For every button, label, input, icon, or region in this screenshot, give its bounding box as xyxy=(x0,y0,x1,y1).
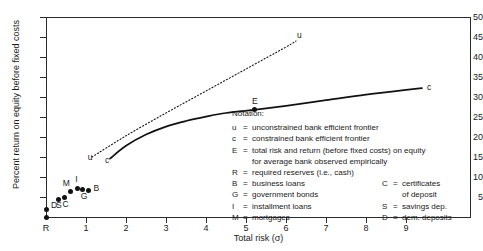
notation-right-entry: C=certificates xyxy=(382,178,440,189)
notation-text-E: total risk and return (before fixed cost… xyxy=(252,146,425,155)
notation-row: E=total risk and return (before fixed co… xyxy=(232,145,480,156)
notation-text-D: dem. deposits xyxy=(402,213,452,222)
notation-equals: = xyxy=(243,201,252,212)
notation-equals: = xyxy=(243,122,252,133)
data-point-label-S: S xyxy=(56,201,62,210)
notation-row: for average bank observed empirically xyxy=(232,156,480,167)
notation-equals: = xyxy=(243,133,252,144)
notation-rows: u=unconstrained bank efficient frontierc… xyxy=(232,122,480,223)
notation-row: I=installment loansS=savings dep. xyxy=(232,201,480,212)
data-point-marker-D xyxy=(44,207,49,212)
notation-right-entry: S=savings dep. xyxy=(382,201,447,212)
notation-row: R=required reserves (i.e., cash) xyxy=(232,167,480,178)
notation-row: B=business loansC=certificates xyxy=(232,178,480,189)
notation-continuation-text: for average bank observed empirically xyxy=(232,157,387,166)
notation-right-entry: of deposit xyxy=(402,189,437,200)
notation-text-R: required reserves (i.e., cash) xyxy=(252,168,354,177)
chart-root: 5101520253035404550 123456789R Percent r… xyxy=(0,0,483,251)
notation-row: M=mortgagesD=dem. deposits xyxy=(232,212,480,223)
notation-legend: Notation: u=unconstrained bank efficient… xyxy=(232,108,480,223)
notation-key-R: R xyxy=(232,167,243,178)
notation-text-c: constrained bank efficient frontier xyxy=(252,134,370,143)
curve-label-c-start: c xyxy=(105,156,109,165)
curve-label-u-start: u xyxy=(88,153,93,162)
notation-key-C: C xyxy=(382,178,393,189)
notation-equals: = xyxy=(393,212,402,223)
notation-key-u: u xyxy=(232,122,243,133)
notation-key-D: D xyxy=(382,212,393,223)
data-point-marker-R xyxy=(44,215,49,220)
curve-label-u-end: u xyxy=(297,31,302,40)
notation-text-G: government bonds xyxy=(252,190,318,199)
notation-text-S: savings dep. xyxy=(402,202,447,211)
notation-equals: = xyxy=(243,212,252,223)
notation-key-M: M xyxy=(232,212,243,223)
notation-equals: = xyxy=(393,178,402,189)
notation-equals: = xyxy=(243,189,252,200)
notation-key-I: I xyxy=(232,201,243,212)
notation-key-S: S xyxy=(382,201,393,212)
notation-key-E: E xyxy=(232,145,243,156)
notation-text-u: unconstrained bank efficient frontier xyxy=(252,123,379,132)
data-point-label-C: C xyxy=(62,200,68,209)
notation-key-G: G xyxy=(232,189,243,200)
notation-row: G=government bondsof deposit xyxy=(232,189,480,200)
data-point-label-I: I xyxy=(75,175,77,184)
notation-key-c: c xyxy=(232,133,243,144)
notation-equals: = xyxy=(243,167,252,178)
notation-text-M: mortgages xyxy=(252,213,290,222)
notation-row: c=constrained bank efficient frontier xyxy=(232,133,480,144)
data-point-label-M: M xyxy=(63,179,70,188)
data-point-marker-I xyxy=(75,186,80,191)
curve-label-c-end: c xyxy=(427,83,431,92)
data-point-label-B: B xyxy=(93,184,99,193)
notation-text-I: installment loans xyxy=(252,202,312,211)
data-point-marker-B xyxy=(86,188,91,193)
notation-equals: = xyxy=(393,201,402,212)
notation-key-B: B xyxy=(232,178,243,189)
notation-title: Notation: xyxy=(232,108,480,119)
notation-equals: = xyxy=(243,145,252,156)
annotated-point-label-E: E xyxy=(252,97,258,106)
data-point-label-G: G xyxy=(81,192,88,201)
notation-row: u=unconstrained bank efficient frontier xyxy=(232,122,480,133)
notation-right-entry: D=dem. deposits xyxy=(382,212,452,223)
notation-equals: = xyxy=(243,178,252,189)
notation-text-B: business loans xyxy=(252,179,305,188)
notation-text-C: certificates xyxy=(402,179,440,188)
